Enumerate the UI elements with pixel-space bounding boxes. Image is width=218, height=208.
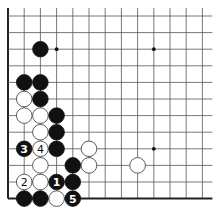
white-stone — [33, 174, 49, 190]
stone-disc — [130, 158, 146, 174]
stone-disc — [33, 91, 49, 107]
move-number: 4 — [37, 143, 44, 156]
move-number: 1 — [53, 176, 61, 189]
white-stone — [81, 141, 97, 157]
white-stone — [81, 158, 97, 174]
stone-disc — [33, 191, 49, 207]
star-point — [55, 47, 59, 51]
white-stone — [130, 158, 146, 174]
stone-disc — [16, 108, 32, 124]
stone-disc — [33, 108, 49, 124]
stone-disc — [33, 41, 49, 57]
white-stone — [16, 91, 32, 107]
stone-disc — [16, 91, 32, 107]
black-stone — [16, 191, 32, 207]
white-stone — [33, 158, 49, 174]
black-stone-1: 1 — [49, 174, 65, 190]
white-stone-2: 2 — [16, 174, 32, 190]
stone-disc — [33, 75, 49, 91]
black-stone — [49, 108, 65, 124]
move-number: 2 — [21, 176, 28, 189]
black-stone-5: 5 — [65, 191, 81, 207]
white-stone-4: 4 — [33, 141, 49, 157]
stone-disc — [33, 124, 49, 140]
stone-disc — [49, 124, 65, 140]
move-number: 3 — [20, 143, 28, 156]
stone-disc — [49, 108, 65, 124]
black-stone — [65, 174, 81, 190]
stone-disc — [81, 141, 97, 157]
stone-disc — [65, 174, 81, 190]
move-number: 5 — [69, 193, 77, 206]
white-stone — [33, 108, 49, 124]
stone-disc — [49, 141, 65, 157]
white-stone — [16, 108, 32, 124]
stone-disc — [33, 158, 49, 174]
go-board: 34215 — [0, 0, 218, 208]
star-point — [152, 147, 156, 151]
black-stone — [65, 158, 81, 174]
stone-disc — [49, 191, 65, 207]
black-stone-3: 3 — [16, 141, 32, 157]
black-stone — [49, 124, 65, 140]
black-stone — [16, 75, 32, 91]
black-stone — [49, 141, 65, 157]
black-stone — [33, 191, 49, 207]
star-point — [152, 47, 156, 51]
black-stone — [33, 75, 49, 91]
stone-disc — [16, 191, 32, 207]
white-stone — [49, 191, 65, 207]
white-stone — [33, 124, 49, 140]
stone-disc — [65, 158, 81, 174]
stone-disc — [16, 75, 32, 91]
stone-disc — [33, 174, 49, 190]
black-stone — [33, 91, 49, 107]
black-stone — [33, 41, 49, 57]
stone-disc — [81, 158, 97, 174]
